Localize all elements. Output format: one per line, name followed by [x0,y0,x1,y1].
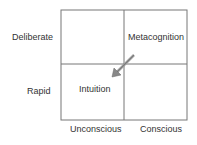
col-label-conscious: Conscious [140,124,182,134]
cell-metacognition: Metacognition [128,32,184,42]
col-label-unconscious: Unconscious [70,124,122,134]
row-label-rapid: Rapid [27,86,51,96]
arrow-icon [112,55,134,77]
cell-intuition: Intuition [79,84,111,94]
row-label-deliberate: Deliberate [12,32,53,42]
